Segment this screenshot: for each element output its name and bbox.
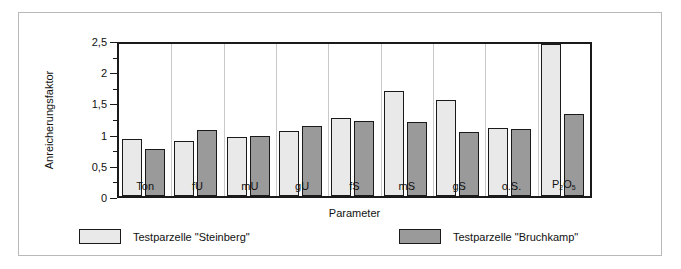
- bar-group-fs: fS: [328, 44, 380, 196]
- y-tick-label: 2,5: [92, 36, 107, 48]
- y-tick: [110, 104, 117, 105]
- bar-group-fu: fU: [171, 44, 223, 196]
- bar-chart: Anreicherungsfaktor 00,511,522,5 TonfUmU…: [19, 13, 663, 257]
- y-tick-label: 2: [101, 67, 107, 79]
- legend-swatch-1: [79, 229, 121, 244]
- bar-group-mu: mU: [224, 44, 276, 196]
- y-axis: 00,511,522,5: [19, 42, 117, 198]
- bar-group-gu: gU: [276, 44, 328, 196]
- bar-group-ms: mS: [381, 44, 433, 196]
- bar-groups: TonfUmUgUfSmSgSo.S.P2O5: [119, 44, 590, 196]
- x-tick-label: fU: [171, 180, 223, 192]
- x-tick-label: gS: [433, 180, 485, 192]
- legend-label-2: Testparzelle "Bruchkamp": [453, 231, 578, 243]
- figure-frame: Anreicherungsfaktor 00,511,522,5 TonfUmU…: [18, 12, 662, 256]
- x-tick-label: o.S.: [485, 180, 537, 192]
- legend-label-1: Testparzelle "Steinberg": [133, 231, 250, 243]
- x-tick-label: mU: [224, 180, 276, 192]
- x-tick-label: mS: [381, 180, 433, 192]
- y-tick: [110, 136, 117, 137]
- y-tick: [110, 73, 117, 74]
- y-tick-label: 1: [101, 130, 107, 142]
- x-tick-label: fS: [328, 180, 380, 192]
- chart-legend: Testparzelle "Steinberg"Testparzelle "Br…: [79, 229, 639, 251]
- x-tick-label: gU: [276, 180, 328, 192]
- legend-swatch-2: [399, 229, 441, 244]
- bar-group-gs: gS: [433, 44, 485, 196]
- x-tick-label: P2O5: [538, 178, 590, 192]
- y-tick-label: 0: [101, 192, 107, 204]
- bar-group-p2o5: P2O5: [538, 44, 590, 196]
- bar-p2o5-series1: [541, 44, 561, 196]
- plot-area: TonfUmUgUfSmSgSo.S.P2O5: [117, 42, 592, 198]
- y-tick: [110, 42, 117, 43]
- x-axis-title: Parameter: [117, 207, 592, 219]
- bar-group-ton: Ton: [119, 44, 171, 196]
- legend-item-1: Testparzelle "Steinberg": [79, 229, 250, 244]
- y-tick-label: 0,5: [92, 161, 107, 173]
- legend-item-2: Testparzelle "Bruchkamp": [399, 229, 578, 244]
- y-tick: [110, 167, 117, 168]
- y-tick: [110, 198, 117, 199]
- bar-group-os: o.S.: [485, 44, 537, 196]
- y-tick-label: 1,5: [92, 98, 107, 110]
- x-tick-label: Ton: [119, 180, 171, 192]
